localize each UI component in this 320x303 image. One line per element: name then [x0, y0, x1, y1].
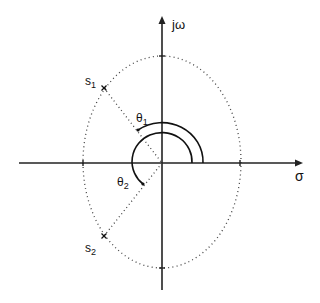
sigma-label: σ	[295, 168, 304, 184]
s2-label: s2	[85, 241, 96, 257]
s-plane-diagram: jω σ s1 s2 θ1 θ2	[0, 0, 320, 303]
jomega-axis-arrow-icon	[159, 16, 166, 24]
jomega-label: jω	[171, 17, 185, 32]
s1-label: s1	[85, 74, 96, 90]
theta1-label: θ1	[136, 111, 148, 127]
theta1-arc-end-dot	[136, 128, 139, 131]
s2-vector	[104, 163, 162, 236]
theta2-arc-end-dot	[141, 182, 144, 185]
theta2-label: θ2	[117, 175, 129, 191]
sigma-axis-arrow-icon	[295, 160, 303, 167]
pole-s2-marker-icon	[102, 234, 107, 239]
theta1-arc	[138, 123, 203, 163]
